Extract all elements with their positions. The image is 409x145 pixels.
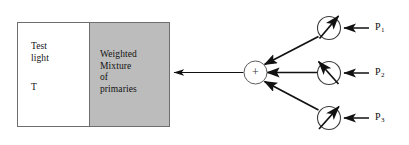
p1-to-sum-arrow [265, 37, 319, 65]
primary-label-p3: P3 [375, 111, 384, 122]
figure-canvas: Test light T Weighted Mixture of primari… [0, 0, 409, 145]
primary-label-p2-subscript: 2 [381, 71, 385, 79]
primary-label-p2: P2 [375, 66, 384, 77]
summing-node-plus-symbol: + [249, 66, 262, 79]
p3-to-sum-arrow [265, 82, 319, 111]
primary-label-p1: P1 [375, 21, 384, 32]
diagram-lines [0, 0, 409, 145]
primary-label-p1-subscript: 1 [381, 26, 385, 34]
primary-label-p3-text: P [375, 111, 381, 122]
primary-label-p1-text: P [375, 21, 381, 32]
primary-label-p3-subscript: 3 [381, 116, 385, 124]
primary-label-p2-text: P [375, 66, 381, 77]
